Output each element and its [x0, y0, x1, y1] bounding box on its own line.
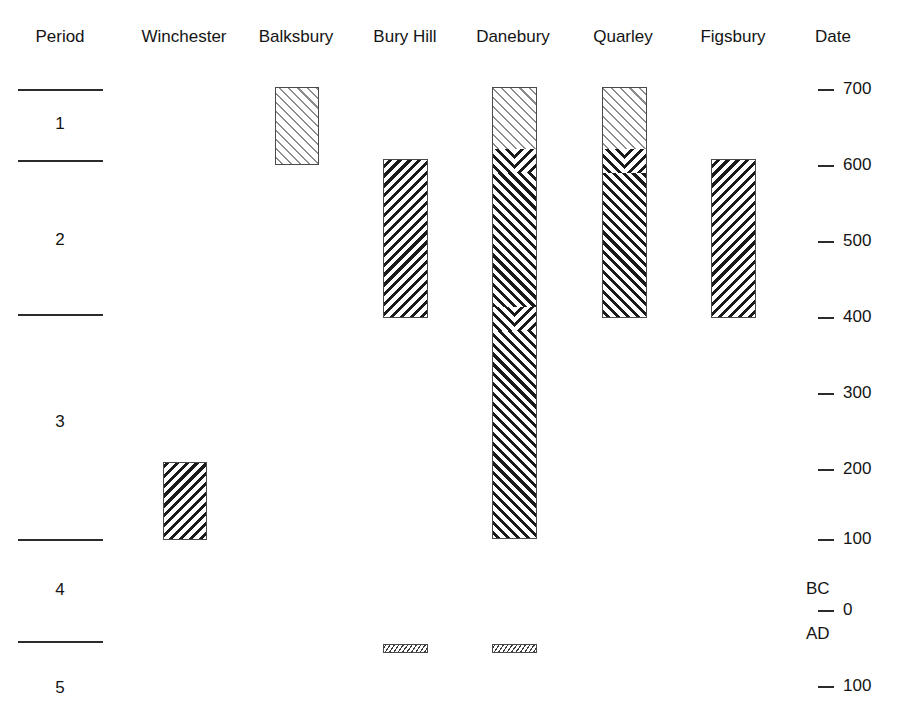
bar-chevron-0 [493, 149, 536, 173]
column-header-balksbury: Balksbury [259, 27, 334, 47]
bar-chevron-1 [493, 307, 536, 331]
bar-segment-1 [493, 161, 536, 539]
bar-segment-0 [384, 160, 427, 318]
era-label-ad: AD [806, 624, 830, 644]
column-header-danebury: Danebury [476, 27, 550, 47]
column-header-buryhill: Bury Hill [373, 27, 436, 47]
period-label-1: 1 [55, 114, 64, 134]
bar-segment-0 [164, 463, 206, 540]
axis-tick-400-BC [818, 317, 834, 319]
bar-figsbury [711, 159, 756, 318]
period-label-3: 3 [55, 412, 64, 432]
axis-tick-100-BC [818, 539, 834, 541]
bar-segment-0 [276, 88, 318, 165]
axis-label-200-BC: 200 [843, 459, 871, 479]
period-rule-1 [18, 160, 103, 162]
era-label-bc: BC [806, 579, 830, 599]
column-header-winchester: Winchester [141, 27, 226, 47]
axis-tick-600-BC [818, 165, 834, 167]
period-label-2: 2 [55, 230, 64, 250]
period-label-5: 5 [55, 678, 64, 698]
column-header-period: Period [35, 27, 84, 47]
axis-label-600-BC: 600 [843, 155, 871, 175]
bar-segment-1 [603, 161, 646, 318]
axis-label-100-BC: 100 [843, 529, 871, 549]
bar-bury-hill-late [383, 644, 428, 653]
bar-balksbury [275, 87, 319, 165]
period-rule-4 [18, 641, 103, 643]
bar-danebury-late [492, 644, 537, 653]
period-rule-2 [18, 314, 103, 316]
period-rule-0 [18, 89, 103, 91]
bar-segment-0 [384, 645, 427, 653]
axis-tick-200-BC [818, 469, 834, 471]
axis-tick-700-BC [818, 89, 834, 91]
bar-segment-0 [712, 160, 755, 318]
axis-tick-0 [818, 610, 834, 612]
column-header-quarley: Quarley [593, 27, 653, 47]
axis-tick-100-AD [818, 686, 834, 688]
period-rule-3 [18, 539, 103, 541]
chronology-chart: PeriodWinchesterBalksburyBury HillDanebu… [0, 0, 904, 717]
axis-tick-300-BC [818, 393, 834, 395]
axis-label-500-BC: 500 [843, 231, 871, 251]
bar-segment-0 [493, 645, 536, 653]
column-header-figsbury: Figsbury [700, 27, 765, 47]
bar-bury-hill [383, 159, 428, 318]
column-header-date: Date [815, 27, 851, 47]
axis-label-400-BC: 400 [843, 307, 871, 327]
axis-label-700-BC: 700 [843, 79, 871, 99]
period-label-4: 4 [55, 580, 64, 600]
bar-danebury [492, 87, 537, 539]
axis-label-100-AD: 100 [843, 676, 871, 696]
bar-chevron-0 [603, 149, 646, 173]
axis-label-300-BC: 300 [843, 383, 871, 403]
bar-winchester [163, 462, 207, 540]
bar-quarley [602, 87, 647, 318]
axis-label-0: 0 [843, 600, 852, 620]
axis-tick-500-BC [818, 241, 834, 243]
